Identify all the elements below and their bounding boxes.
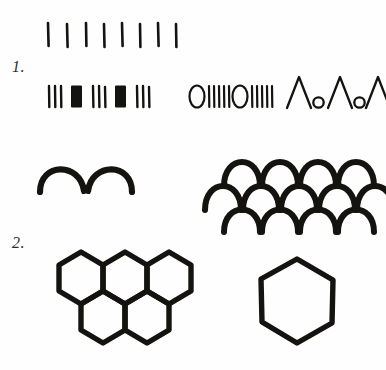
honeycomb-cluster — [46, 238, 196, 360]
tally-row — [44, 20, 184, 52]
lambda-and-circle-row — [285, 72, 383, 114]
arch-pair — [36, 150, 144, 198]
single-hexagon — [253, 255, 357, 351]
section-number-1: 1. — [12, 58, 25, 76]
circle-and-bar-row — [188, 82, 270, 112]
fish-scale-pattern — [222, 148, 386, 234]
bar-and-block-row — [46, 82, 166, 112]
worksheet-canvas: 1. — [0, 0, 386, 370]
section-number-2: 2. — [12, 234, 25, 252]
